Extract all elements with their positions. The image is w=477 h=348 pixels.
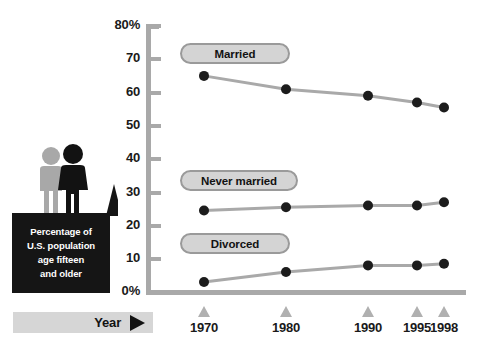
data-point-never-married-1995 <box>412 201 422 211</box>
people-illustration <box>28 144 118 216</box>
y-tick-60 <box>151 91 161 95</box>
x-label-1998: 1998 <box>414 320 474 335</box>
chart-figure: 80% 70 60 50 40 30 20 10 0% 1970 1980 19… <box>0 0 477 348</box>
y-tick-50 <box>151 124 161 128</box>
data-point-married-1998 <box>439 102 449 112</box>
caption-line-1: Percentage of <box>30 225 92 239</box>
data-point-married-1970 <box>199 71 209 81</box>
y-tick-20 <box>151 224 161 228</box>
y-tick-10 <box>151 257 161 261</box>
year-axis-label: Year <box>94 315 121 330</box>
series-line-never-married <box>204 202 444 210</box>
x-label-1980: 1980 <box>256 320 316 335</box>
y-tick-40 <box>151 157 161 161</box>
x-tick-marker-1998 <box>438 306 450 317</box>
y-label-50: 50 <box>98 117 140 132</box>
y-label-70: 70 <box>98 50 140 65</box>
data-point-married-1980 <box>281 84 291 94</box>
caption-line-3: age fifteen <box>38 253 84 267</box>
caption-box: Percentage of U.S. population age fiftee… <box>12 213 110 293</box>
x-axis-line <box>146 290 466 295</box>
data-point-never-married-1990 <box>363 201 373 211</box>
series-label-married: Married <box>180 43 290 64</box>
x-tick-marker-1980 <box>280 306 292 317</box>
y-tick-70 <box>151 57 161 61</box>
series-label-never-married: Never married <box>180 170 298 191</box>
y-tick-80 <box>151 24 161 28</box>
data-point-never-married-1980 <box>281 202 291 212</box>
y-label-80: 80% <box>98 17 140 32</box>
data-point-married-1990 <box>363 91 373 101</box>
year-axis-bar: Year <box>13 312 153 333</box>
data-point-divorced-1998 <box>439 259 449 269</box>
series-line-married <box>204 76 444 108</box>
x-tick-marker-1990 <box>362 306 374 317</box>
data-point-married-1995 <box>412 97 422 107</box>
series-line-divorced <box>204 264 444 282</box>
data-point-divorced-1990 <box>363 260 373 270</box>
x-tick-marker-1995 <box>411 306 423 317</box>
caption-line-4: and older <box>40 267 82 281</box>
arrow-right-icon <box>130 315 145 331</box>
y-tick-30 <box>151 191 161 195</box>
data-point-never-married-1998 <box>439 197 449 207</box>
x-label-1970: 1970 <box>174 320 234 335</box>
series-label-divorced: Divorced <box>180 233 290 254</box>
data-point-never-married-1970 <box>199 206 209 216</box>
y-label-60: 60 <box>98 84 140 99</box>
x-tick-marker-1970 <box>198 306 210 317</box>
data-point-divorced-1995 <box>412 260 422 270</box>
caption-line-2: U.S. population <box>27 239 95 253</box>
data-point-divorced-1980 <box>281 267 291 277</box>
data-point-divorced-1970 <box>199 277 209 287</box>
